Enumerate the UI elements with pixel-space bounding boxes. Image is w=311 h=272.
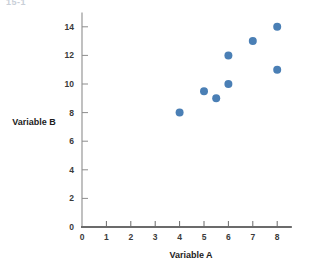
- y-tick-label: 4: [69, 165, 74, 175]
- y-axis: 02468101214: [65, 13, 88, 233]
- data-point: [200, 87, 208, 95]
- plot-canvas: 02468101214 012345678 Variable A Variabl…: [0, 0, 311, 272]
- data-point: [273, 66, 281, 74]
- x-tick-label: 6: [226, 232, 231, 242]
- x-tick-label: 0: [80, 232, 85, 242]
- x-tick-label: 7: [250, 232, 255, 242]
- data-point: [224, 51, 232, 59]
- data-point: [176, 109, 184, 117]
- x-tick-label: 2: [128, 232, 133, 242]
- y-tick-label: 2: [69, 193, 74, 203]
- x-axis: 012345678: [80, 221, 292, 242]
- y-tick-label: 8: [69, 108, 74, 118]
- x-tick-label: 4: [177, 232, 182, 242]
- y-tick-label: 6: [69, 136, 74, 146]
- x-axis-title: Variable A: [169, 250, 213, 260]
- scatter-chart: 15-1 02468101214 012345678 Variable A Va…: [0, 0, 311, 272]
- x-tick-label: 5: [202, 232, 207, 242]
- y-axis-title: Variable B: [12, 117, 56, 127]
- y-tick-label: 10: [65, 79, 75, 89]
- x-tick-label: 3: [153, 232, 158, 242]
- y-tick-label: 14: [65, 22, 75, 32]
- x-tick-label: 8: [275, 232, 280, 242]
- x-tick-label: 1: [104, 232, 109, 242]
- y-tick-label: 12: [65, 50, 75, 60]
- data-point: [224, 80, 232, 88]
- data-point: [212, 94, 220, 102]
- data-point: [273, 23, 281, 31]
- data-points-layer: [176, 23, 282, 117]
- data-point: [249, 37, 257, 45]
- y-tick-label: 0: [69, 222, 74, 232]
